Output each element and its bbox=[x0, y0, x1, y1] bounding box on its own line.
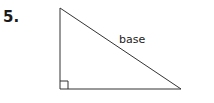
right-triangle-figure: base bbox=[0, 0, 214, 103]
side-label-base: base bbox=[119, 33, 145, 46]
triangle-shape bbox=[60, 8, 181, 89]
right-angle-marker bbox=[60, 81, 68, 89]
